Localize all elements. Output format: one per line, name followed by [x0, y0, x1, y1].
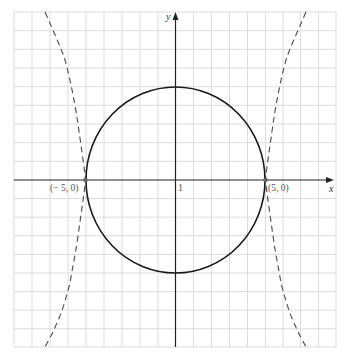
unit-label: 1 [178, 182, 183, 193]
axes [14, 12, 334, 347]
y-axis-arrow-icon [173, 12, 179, 20]
point-5-0 [263, 178, 268, 183]
x-axis-label: x [328, 183, 334, 194]
y-axis-label: y [165, 11, 171, 22]
point-neg5-0 [83, 178, 88, 183]
coordinate-plane: y x 1 (− 5, 0) (5, 0) [0, 0, 351, 360]
point-label-neg5: (− 5, 0) [50, 183, 78, 194]
point-label-5: (5, 0) [268, 183, 289, 194]
